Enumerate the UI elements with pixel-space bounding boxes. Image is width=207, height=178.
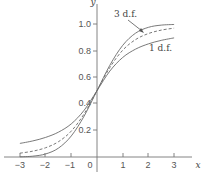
y-tick-labels: 0.2 0.4 0.6 0.8 1.0 y [78, 0, 96, 135]
y-axis-label: y [89, 0, 96, 7]
annotation-3df: 3 d.f. [114, 9, 137, 19]
x-axis-label: x [195, 160, 200, 170]
y-tick-label: 1.0 [78, 19, 91, 29]
x-tick-labels: −3 −2 −1 0 1 2 3 x [15, 160, 201, 170]
arrow-3df [128, 20, 142, 31]
x-tick-label: 1 [120, 160, 125, 170]
y-tick-label: 0.6 [78, 72, 91, 82]
x-tick-label: 2 [145, 160, 150, 170]
cdf-chart: −3 −2 −1 0 1 2 3 x 0.2 0.4 0.6 0.8 1.0 y… [0, 0, 207, 178]
x-tick-label: −1 [65, 160, 75, 170]
y-ticks [93, 24, 97, 130]
y-tick-label: 0.8 [78, 46, 91, 56]
x-tick-label: 3 [171, 160, 176, 170]
x-tick-label: −3 [15, 160, 25, 170]
x-tick-label: −2 [40, 160, 50, 170]
annotation-1df: 1 d.f. [149, 43, 172, 53]
x-tick-label: 0 [87, 160, 92, 170]
y-tick-label: 0.2 [78, 125, 91, 135]
